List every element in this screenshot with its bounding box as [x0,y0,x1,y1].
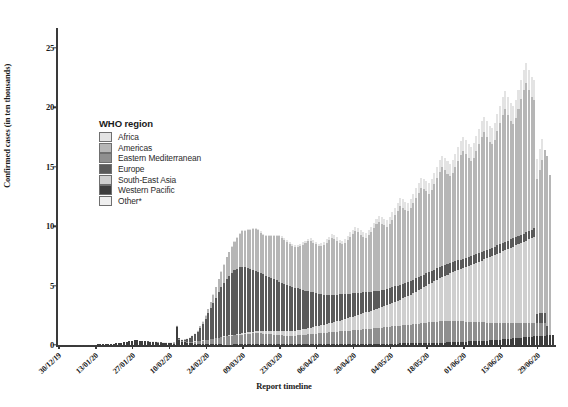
x-tick-mark [58,345,59,349]
legend-label: Americas [118,143,152,153]
x-tick-label: 29/06/20 [516,351,542,376]
legend-swatch [99,185,112,195]
x-tick-label: 18/05/20 [405,351,431,376]
y-tick-label: 25 [46,43,54,53]
x-tick-mark [426,345,427,349]
legend-swatch [99,175,112,185]
legend-swatch [99,132,112,142]
bar-segment [533,80,535,100]
legend-label: Africa [118,132,139,142]
y-tick-label: 20 [46,102,54,112]
x-tick-label: 24/02/20 [185,351,211,376]
x-tick-label: 06/04/20 [295,351,321,376]
y-axis-title: Confirmed cases (in ten thousands) [2,64,12,188]
legend-item: South-East Asia [99,174,201,185]
y-tick-label: 0 [50,340,54,350]
y-tick-label: 10 [46,221,54,231]
legend-item: Eastern Mediterranean [99,153,201,164]
legend-item: Western Pacific [99,185,201,196]
bar-segment [549,175,551,335]
x-tick-label: 15/06/20 [479,351,505,376]
x-tick-label: 27/01/20 [111,351,137,376]
legend-item: Africa [99,132,201,143]
x-tick-label: 20/04/20 [332,351,358,376]
legend-swatch [99,164,112,174]
x-tick-mark [353,345,354,349]
x-tick-mark [132,345,133,349]
x-tick-label: 30/12/19 [37,351,63,376]
legend-label: Europe [118,164,144,174]
x-tick-label: 10/02/20 [148,351,174,376]
x-tick-mark [95,345,96,349]
legend-swatch [99,196,112,206]
x-tick-mark [463,345,464,349]
legend-entries: AfricaAmericasEastern MediterraneanEurop… [99,132,201,206]
x-tick-mark [169,345,170,349]
legend-label: South-East Asia [118,175,176,185]
x-tick-mark [500,345,501,349]
legend-label: Eastern Mediterranean [118,153,201,163]
legend-label: Other* [118,196,142,206]
x-tick-label: 09/03/20 [221,351,247,376]
legend-swatch [99,153,112,163]
bar-segment [552,335,554,345]
bar [549,175,551,345]
x-tick-mark [279,345,280,349]
legend-title: WHO region [99,118,201,129]
legend-item: Other* [99,196,201,207]
bar [552,335,554,345]
x-tick-mark [316,345,317,349]
x-tick-label: 13/01/20 [74,351,100,376]
x-axis-title: Report timeline [0,381,568,391]
x-tick-label: 04/05/20 [369,351,395,376]
y-tick-label: 15 [46,162,54,172]
legend: WHO region AfricaAmericasEastern Mediter… [99,118,201,206]
y-tick-label: 5 [50,281,54,291]
legend-item: Europe [99,164,201,175]
x-tick-label: 01/06/20 [442,351,468,376]
x-tick-mark [390,345,391,349]
legend-item: Americas [99,143,201,154]
x-tick-mark [242,345,243,349]
legend-label: Western Pacific [118,185,175,195]
legend-swatch [99,143,112,153]
x-tick-mark [206,345,207,349]
chart-figure: Confirmed cases (in ten thousands) Repor… [0,0,568,407]
x-tick-label: 23/03/20 [258,351,284,376]
x-tick-mark [537,345,538,349]
